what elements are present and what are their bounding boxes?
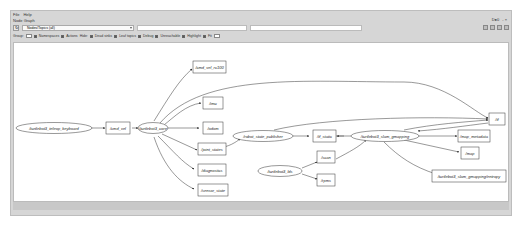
ros-graph: /turtlebot3_teleop_keyboard /turtlebot3_… [14,43,508,201]
svg-text:/imu: /imu [208,101,217,106]
graph-toolbar: ↻ Nodes/Topics (all) [13,24,509,31]
fit-checkbox[interactable] [203,35,206,38]
svg-text:/turtlebot3_slam_gmapping: /turtlebot3_slam_gmapping [360,134,410,139]
svg-text:/cmd_vel_rc100: /cmd_vel_rc100 [194,65,224,70]
unreachable-label: Unreachable [160,34,180,38]
svg-text:/joint_states: /joint_states [200,147,222,152]
graph-canvas[interactable]: /turtlebot3_teleop_keyboard /turtlebot3_… [13,42,509,202]
svg-text:/sensor_state: /sensor_state [200,188,226,193]
svg-text:/map_metadata: /map_metadata [459,134,489,139]
panel-header-controls: D●0 - × [492,17,507,22]
topic-slam-entropy[interactable]: /turtlebot3_slam_gmapping/entropy [432,170,506,182]
dead-sinks-label: Dead sinks [95,34,112,38]
topic-map-metadata[interactable]: /map_metadata [458,130,490,142]
svg-text:/rpms: /rpms [320,178,331,183]
graph-options-bar: Group: Namespaces Actions Hide: Dead sin… [13,33,220,39]
topic-filter-input[interactable] [250,25,362,31]
fit-zoom-button[interactable] [214,34,220,38]
rqt-graph-window: File Help Node Graph D●0 - × ↻ Nodes/Top… [10,10,512,216]
namespaces-label: Namespaces [39,34,59,38]
svg-text:/turtlebot3_teleop_keyboard: /turtlebot3_teleop_keyboard [28,126,79,131]
actions-label: Actions [66,34,77,38]
leaf-topics-checkbox[interactable] [114,35,117,38]
node-slam-gmapping[interactable]: /turtlebot3_slam_gmapping [351,131,419,142]
topic-tf-static[interactable]: /tf_static [313,130,336,142]
svg-text:/tf_static: /tf_static [316,134,332,139]
svg-text:/odom: /odom [206,126,219,131]
svg-text:/cmd_vel: /cmd_vel [109,126,126,131]
fit-icon[interactable] [504,25,509,30]
svg-text:/turtlebot3_slam_gmapping/entr: /turtlebot3_slam_gmapping/entropy [437,174,502,179]
unreachable-checkbox[interactable] [155,35,158,38]
dead-sinks-checkbox[interactable] [90,35,93,38]
fit-label: Fit [208,34,212,38]
debug-label: Debug [143,34,153,38]
load-icon[interactable] [497,25,502,30]
node-turtlebot3-core[interactable]: /turtlebot3_core [138,123,168,134]
panel-title: Node Graph [13,18,35,23]
topic-joint-states[interactable]: /joint_states [198,143,226,155]
panel-options-button[interactable]: D●0 [492,17,500,22]
node-turtlebot3-lds[interactable]: /turtlebot3_lds [258,166,302,177]
svg-text:/turtlebot3_core: /turtlebot3_core [138,126,168,131]
graph-action-buttons [483,25,509,30]
actions-checkbox[interactable] [61,35,64,38]
topic-cmd-vel[interactable]: /cmd_vel [106,122,130,134]
node-filter-input[interactable] [137,25,247,31]
svg-text:/robot_state_publisher: /robot_state_publisher [242,134,283,139]
refresh-button[interactable]: ↻ [13,25,19,31]
leaf-topics-label: Leaf topics [119,34,136,38]
save-dot-icon[interactable] [483,25,488,30]
topic-odom[interactable]: /odom [203,122,223,134]
svg-text:/turtlebot3_lds: /turtlebot3_lds [266,169,292,174]
save-svg-icon[interactable] [490,25,495,30]
graph-type-select[interactable]: Nodes/Topics (all) [22,25,134,31]
topic-cmd-vel-rc100[interactable]: /cmd_vel_rc100 [193,61,226,73]
svg-text:/scan: /scan [320,155,331,160]
group-depth-spinbox[interactable] [26,34,32,38]
hide-label: Hide: [80,34,88,38]
namespaces-checkbox[interactable] [34,35,37,38]
highlight-label: Highlight [187,34,201,38]
topic-tf[interactable]: /tf [489,113,505,125]
node-teleop-keyboard[interactable]: /turtlebot3_teleop_keyboard [16,123,92,134]
topic-rpms[interactable]: /rpms [317,174,335,186]
refresh-icon: ↻ [15,25,18,30]
svg-text:/diagnostics: /diagnostics [200,168,222,173]
debug-checkbox[interactable] [138,35,141,38]
topic-imu[interactable]: /imu [203,97,223,109]
topic-scan[interactable]: /scan [317,151,335,163]
group-label: Group: [13,34,24,38]
topic-diagnostics[interactable]: /diagnostics [198,164,226,176]
highlight-checkbox[interactable] [182,35,185,38]
topic-map[interactable]: /map [461,147,479,159]
topic-sensor-state[interactable]: /sensor_state [198,184,228,196]
panel-close-button[interactable]: - × [502,17,507,22]
node-robot-state-publisher[interactable]: /robot_state_publisher [233,131,293,142]
horizontal-scrollbar[interactable] [13,202,509,210]
svg-text:/map: /map [465,151,476,156]
